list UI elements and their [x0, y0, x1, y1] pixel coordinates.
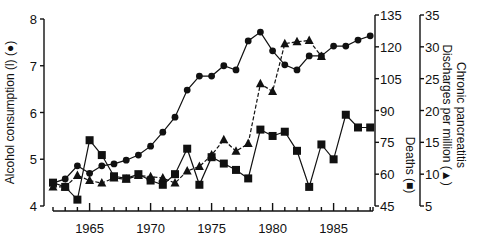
axis-labels: 45678Alcohol consumption (l) (●)45607590…	[3, 8, 468, 236]
circle-marker	[208, 73, 215, 80]
deaths-tick-label: 105	[380, 72, 402, 87]
circle-marker	[147, 143, 154, 150]
square-marker	[342, 111, 350, 119]
circle-marker	[111, 161, 118, 168]
left-tick-label: 5	[30, 152, 37, 167]
square-marker	[86, 136, 94, 144]
x-tick-label: 1965	[75, 221, 104, 236]
circle-marker	[62, 175, 69, 182]
circle-marker	[233, 67, 240, 74]
series-circle	[50, 29, 374, 187]
square-marker	[159, 181, 167, 189]
pancreatitis-tick-label: 15	[425, 135, 439, 150]
pancreatitis-tick-label: 30	[425, 40, 439, 55]
pancreatitis-tick-label: 25	[425, 72, 439, 87]
series-triangle	[49, 35, 326, 190]
square-marker	[98, 151, 106, 159]
triangle-marker	[232, 146, 241, 155]
square-marker	[232, 166, 240, 174]
circle-marker	[330, 43, 337, 50]
deaths-axis-label: Deaths (■)	[403, 137, 417, 194]
triangle-marker	[268, 86, 277, 95]
square-marker	[195, 181, 203, 189]
circle-marker	[257, 29, 264, 36]
circle-marker	[220, 62, 227, 69]
circle-marker	[281, 61, 288, 68]
deaths-tick-label: 75	[380, 135, 394, 150]
square-marker	[183, 145, 191, 153]
circle-marker	[74, 162, 81, 169]
deaths-tick-label: 60	[380, 167, 394, 182]
chart: 45678Alcohol consumption (l) (●)45607590…	[0, 0, 481, 242]
square-marker	[366, 123, 374, 131]
x-tick-label: 1975	[197, 221, 226, 236]
square-marker	[317, 140, 325, 148]
circle-marker	[355, 37, 362, 44]
pancreatitis-tick-label: 20	[425, 104, 439, 119]
square-marker	[281, 128, 289, 136]
circle-marker	[306, 53, 313, 60]
triangle-marker	[244, 139, 253, 148]
square-marker	[305, 183, 313, 191]
triangle-marker	[305, 35, 314, 44]
circle-marker	[245, 38, 252, 45]
circle-marker	[123, 157, 130, 164]
circle-marker	[135, 152, 142, 159]
x-tick-label: 1980	[258, 221, 287, 236]
x-tick-label: 1985	[319, 221, 348, 236]
square-marker	[220, 160, 228, 168]
square-marker	[293, 147, 301, 155]
circle-marker	[196, 73, 203, 80]
left-tick-label: 7	[30, 59, 37, 74]
square-marker	[354, 123, 362, 131]
plot-area	[49, 29, 375, 204]
left-tick-label: 4	[30, 199, 37, 214]
square-marker	[256, 126, 264, 134]
left-axis-label: Alcohol consumption (l) (●)	[3, 41, 17, 184]
x-tick-label: 1970	[136, 221, 165, 236]
circle-marker	[294, 67, 301, 74]
circle-marker	[184, 87, 191, 94]
triangle-marker	[219, 135, 228, 144]
circle-marker	[269, 47, 276, 54]
square-marker	[330, 155, 338, 163]
triangle-marker	[146, 172, 155, 181]
deaths-tick-label: 90	[380, 104, 394, 119]
left-tick-label: 8	[30, 12, 37, 27]
pancreatitis-tick-label: 10	[425, 167, 439, 182]
pancreatitis-axis-label-2: Discharges per million (▲)	[440, 44, 454, 185]
circle-marker	[367, 32, 374, 39]
square-marker	[171, 170, 179, 178]
pancreatitis-tick-label: 5	[425, 199, 432, 214]
left-tick-label: 6	[30, 106, 37, 121]
deaths-tick-label: 45	[380, 199, 394, 214]
triangle-marker	[73, 170, 82, 179]
circle-marker	[342, 43, 349, 50]
circle-marker	[159, 129, 166, 136]
circle-marker	[172, 114, 179, 121]
square-marker	[269, 132, 277, 140]
deaths-tick-label: 135	[380, 8, 402, 23]
square-marker	[244, 174, 252, 182]
circle-marker	[98, 162, 105, 169]
square-marker	[73, 196, 81, 204]
pancreatitis-axis-label-1: Chronic pancreatitis	[454, 62, 468, 168]
pancreatitis-tick-label: 35	[425, 8, 439, 23]
triangle-marker	[256, 79, 265, 88]
deaths-tick-label: 120	[380, 40, 402, 55]
